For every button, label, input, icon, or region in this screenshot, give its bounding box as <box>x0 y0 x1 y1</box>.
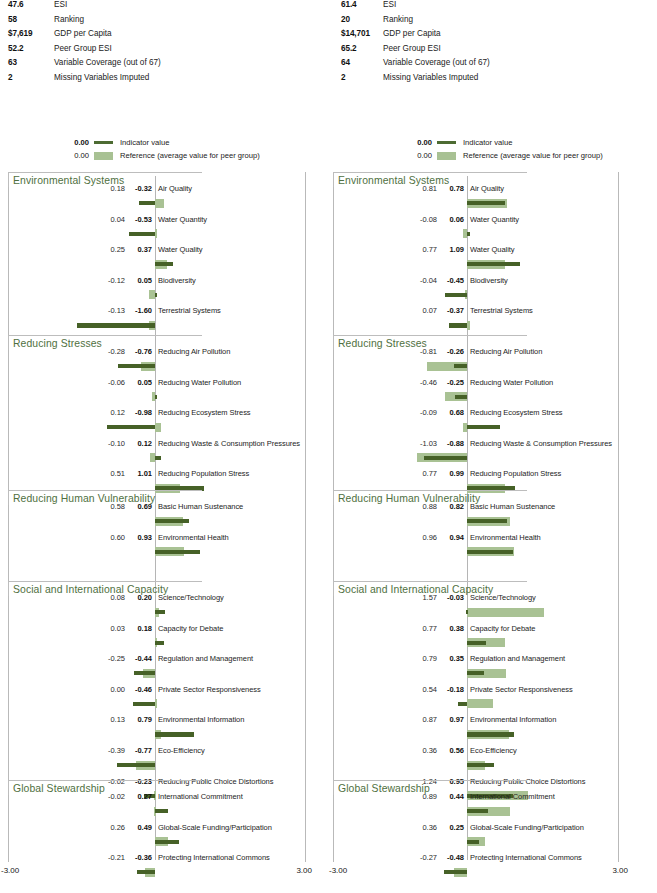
reference-bar <box>467 699 493 708</box>
indicator-reference-value: 0.77 <box>422 469 437 478</box>
axis-max-label: 3.00 <box>296 866 312 875</box>
indicator-labels: -0.04-0.45Biodiversity <box>329 276 657 288</box>
indicator-value: 0.78 <box>449 184 464 193</box>
indicator-bar <box>129 232 155 236</box>
indicator-row: -0.020.27International Commitment <box>0 792 328 819</box>
indicator-labels: 0.960.94Environmental Health <box>329 533 657 545</box>
indicator-row: 0.770.38Capacity for Debate <box>329 624 657 651</box>
chart-legend: 0.00Indicator value0.00Reference (averag… <box>62 136 260 162</box>
indicator-reference-value: 0.96 <box>422 533 437 542</box>
indicator-bar <box>155 519 189 523</box>
indicator-name: Reducing Waste & Consumption Pressures <box>158 439 300 448</box>
indicator-name: Reducing Waste & Consumption Pressures <box>470 439 612 448</box>
axis-min-label: -3.00 <box>329 866 347 875</box>
indicator-labels: 0.250.37Water Quality <box>0 245 328 257</box>
indicator-bars <box>0 196 328 211</box>
indicator-reference-value: 0.60 <box>110 533 125 542</box>
indicator-bar <box>107 425 155 429</box>
indicator-labels: -0.21-0.36Protecting International Commo… <box>0 853 328 865</box>
indicator-labels: -0.39-0.77Eco-Efficiency <box>0 746 328 758</box>
indicator-bar <box>454 364 467 368</box>
indicator-value: 0.35 <box>449 654 464 663</box>
indicator-value: -0.77 <box>135 746 152 755</box>
indicator-bars <box>329 318 657 333</box>
indicator-row: -0.100.12Reducing Waste & Consumption Pr… <box>0 439 328 466</box>
indicator-row: 0.54-0.18Private Sector Responsiveness <box>329 685 657 712</box>
indicator-row: -0.25-0.44Regulation and Management <box>0 654 328 681</box>
indicator-labels: 0.00-0.46Private Sector Responsiveness <box>0 685 328 697</box>
stat-value: 65.2 <box>329 44 383 53</box>
indicator-bars <box>0 666 328 681</box>
indicator-reference-value: 0.81 <box>422 184 437 193</box>
indicator-reference-value: -0.08 <box>420 215 437 224</box>
indicator-value: -0.26 <box>447 347 464 356</box>
indicator-name: Reducing Population Stress <box>470 469 561 478</box>
indicator-bars <box>329 835 657 850</box>
indicator-row: 0.771.09Water Quality <box>329 245 657 272</box>
indicator-row: 0.030.18Capacity for Debate <box>0 624 328 651</box>
stat-row: 65.2Peer Group ESI <box>329 44 657 59</box>
indicator-name: Capacity for Debate <box>470 624 535 633</box>
indicator-bar <box>467 732 514 736</box>
indicator-name: Eco-Efficiency <box>470 746 517 755</box>
indicator-bar <box>467 671 484 675</box>
indicator-name: Eco-Efficiency <box>158 746 205 755</box>
indicator-reference-value: 0.77 <box>422 624 437 633</box>
stat-value: 20 <box>329 15 383 24</box>
indicator-name: Global-Scale Funding/Participation <box>470 823 584 832</box>
indicator-bar <box>155 732 194 736</box>
indicator-bars <box>329 514 657 529</box>
indicator-row: 0.080.20Science/Technology <box>0 593 328 620</box>
indicator-bar <box>155 293 157 297</box>
indicator-reference-value: 0.07 <box>422 306 437 315</box>
indicator-name: Science/Technology <box>470 593 536 602</box>
indicator-bar <box>77 323 155 327</box>
indicator-reference-value: 0.88 <box>422 502 437 511</box>
reference-bar <box>155 699 157 708</box>
indicator-bar <box>467 232 470 236</box>
indicator-bars <box>329 420 657 435</box>
line-swatch-icon <box>94 141 113 144</box>
indicator-name: Basic Human Sustenance <box>158 502 243 511</box>
indicator-reference-value: 0.25 <box>110 245 125 254</box>
indicator-bar <box>134 671 155 675</box>
stat-value: 47.6 <box>0 0 54 9</box>
indicator-bar <box>155 456 161 460</box>
indicator-labels: 0.511.01Reducing Population Stress <box>0 469 328 481</box>
indicator-bar <box>155 840 179 844</box>
indicator-value: 0.69 <box>137 502 152 511</box>
indicator-reference-value: 0.58 <box>110 502 125 511</box>
indicator-value: 0.56 <box>449 746 464 755</box>
indicator-row: 0.810.78Air Quality <box>329 184 657 211</box>
indicator-name: Water Quality <box>158 245 203 254</box>
stat-row: 52.2Peer Group ESI <box>0 44 328 59</box>
indicator-labels: 0.030.18Capacity for Debate <box>0 624 328 636</box>
indicator-reference-value: 0.87 <box>422 715 437 724</box>
indicator-value: -0.03 <box>447 593 464 602</box>
indicator-labels: -0.13-1.60Terrestrial Systems <box>0 306 328 318</box>
indicator-labels: -0.81-0.26Reducing Air Pollution <box>329 347 657 359</box>
indicator-name: International Commitment <box>470 792 555 801</box>
indicator-reference-value: -0.10 <box>108 439 125 448</box>
indicator-bars <box>329 666 657 681</box>
stat-value: $7,619 <box>0 29 54 38</box>
indicator-row: 0.870.97Environmental Information <box>329 715 657 742</box>
indicator-labels: -0.28-0.76Reducing Air Pollution <box>0 347 328 359</box>
indicator-bar <box>467 262 520 266</box>
indicator-value: 0.38 <box>449 624 464 633</box>
indicator-reference-value: -0.04 <box>420 276 437 285</box>
indicator-bars <box>0 420 328 435</box>
indicator-row: 1.57-0.03Science/Technology <box>329 593 657 620</box>
reference-bar <box>155 229 157 238</box>
legend-reference-value: 0.00 <box>405 151 432 160</box>
box-swatch-icon <box>437 152 456 160</box>
indicator-bar <box>155 809 168 813</box>
country-panel-left: 47.6ESI58Ranking$7,619GDP per Capita52.2… <box>0 0 328 893</box>
indicator-name: International Commitment <box>158 792 243 801</box>
indicator-row: 0.12-0.98Reducing Ecosystem Stress <box>0 408 328 435</box>
indicator-row: 0.880.82Basic Human Sustenance <box>329 502 657 529</box>
indicator-labels: -0.080.06Water Quantity <box>329 215 657 227</box>
indicator-row: 0.790.35Regulation and Management <box>329 654 657 681</box>
indicator-value: 0.06 <box>449 215 464 224</box>
stat-value: 2 <box>329 73 383 82</box>
